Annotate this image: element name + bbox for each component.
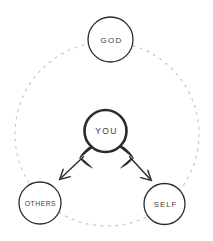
node-you: YOU <box>85 110 127 152</box>
relationship-diagram-canvas: GOD YOU OTHERS SELF <box>0 0 213 241</box>
arrow-shaft <box>62 157 84 178</box>
relationship-diagram: GOD YOU OTHERS SELF <box>0 0 213 241</box>
you-label: YOU <box>95 126 118 136</box>
node-others: OTHERS <box>19 182 61 224</box>
node-god: GOD <box>88 17 133 62</box>
arrow-fletching-lower <box>80 158 94 169</box>
node-self: SELF <box>144 184 185 225</box>
arrow-shaft <box>130 157 150 179</box>
arrow-you-to-others <box>60 145 94 180</box>
arrow-fletching-upper <box>119 145 134 159</box>
arrow-you-to-self <box>119 145 151 181</box>
others-label: OTHERS <box>25 200 56 207</box>
self-label: SELF <box>154 200 178 209</box>
god-label: GOD <box>101 36 123 45</box>
